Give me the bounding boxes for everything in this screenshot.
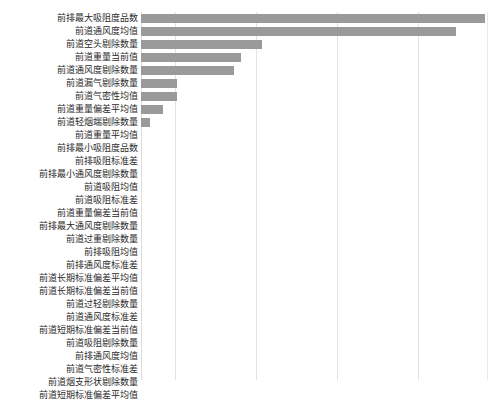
bar-row-label: 前道气密性均值 xyxy=(0,90,138,103)
bar-row: 前道重量偏差当前值 xyxy=(0,207,499,220)
bar-row-label: 前排吸阻均值 xyxy=(0,246,138,259)
bar-row: 前排通风度标准差 xyxy=(0,259,499,272)
bar xyxy=(141,105,163,114)
bar-row: 前排通风度均值 xyxy=(0,350,499,363)
bar-row: 前道通风度标准差 xyxy=(0,311,499,324)
bar-row: 前排最大通风度剔除数量 xyxy=(0,220,499,233)
bar-row: 前道吸阻均值 xyxy=(0,181,499,194)
bar xyxy=(141,79,177,88)
bar-row-label: 前道吸阻标准差 xyxy=(0,194,138,207)
bar-row: 前道过轻剔除数量 xyxy=(0,298,499,311)
bar-row: 前排最小通风度剔除数量 xyxy=(0,168,499,181)
bar-row: 前道气密性标准差 xyxy=(0,363,499,376)
bar-row: 前道重量当前值 xyxy=(0,51,499,64)
bar-row-label: 前道漏气剔除数量 xyxy=(0,77,138,90)
bar-row-label: 前道通风度均值 xyxy=(0,25,138,38)
bar-row-label: 前道吸阻均值 xyxy=(0,181,138,194)
bar-row: 前道轻烟端剔除数量 xyxy=(0,116,499,129)
bar-row: 前道吸阻标准差 xyxy=(0,194,499,207)
bar-row-label: 前排吸阻标准差 xyxy=(0,155,138,168)
bar-row: 前排吸阻标准差 xyxy=(0,155,499,168)
bar-row-label: 前道通风度标准差 xyxy=(0,311,138,324)
bar-row: 前道气密性均值 xyxy=(0,90,499,103)
bar xyxy=(141,53,241,62)
bar-row: 前道重量偏差平均值 xyxy=(0,103,499,116)
bar-row-label: 前排通风度标准差 xyxy=(0,259,138,272)
bar-row: 前道漏气剔除数量 xyxy=(0,77,499,90)
bar-row-label: 前道长期标准偏差平均值 xyxy=(0,272,138,285)
bar-row-label: 前排最小通风度剔除数量 xyxy=(0,168,138,181)
bar xyxy=(141,27,456,36)
bar-row: 前道长期标准偏差平均值 xyxy=(0,272,499,285)
bar-row: 前排最大吸阻度品数 xyxy=(0,12,499,25)
bar xyxy=(141,40,262,49)
bar-row-label: 前道短期标准偏差当前值 xyxy=(0,324,138,337)
bar-row-label: 前排最大通风度剔除数量 xyxy=(0,220,138,233)
bar xyxy=(141,118,150,127)
bar-row: 前排最小吸阻度品数 xyxy=(0,142,499,155)
bar-row: 前道长期标准偏差当前值 xyxy=(0,285,499,298)
bar-row: 前排吸阻均值 xyxy=(0,246,499,259)
bar-row: 前道通风度剔除数量 xyxy=(0,64,499,77)
bar xyxy=(141,14,485,23)
bar-row: 前道通风度均值 xyxy=(0,25,499,38)
bar-row-label: 前道烟支形状剔除数量 xyxy=(0,376,138,389)
bar xyxy=(141,66,234,75)
bar-row-label: 前排通风度均值 xyxy=(0,350,138,363)
bar-row-label: 前道重量当前值 xyxy=(0,51,138,64)
bar xyxy=(141,92,177,101)
plot-area: 前排最大吸阻度品数前道通风度均值前道空头剔除数量前道重量当前值前道通风度剔除数量… xyxy=(0,12,499,380)
bar-row: 前道烟支形状剔除数量 xyxy=(0,376,499,389)
bar-row-label: 前道通风度剔除数量 xyxy=(0,64,138,77)
bar-row-label: 前道重量偏差平均值 xyxy=(0,103,138,116)
bar-row-label: 前道轻烟端剔除数量 xyxy=(0,116,138,129)
bar-row-label: 前道长期标准偏差当前值 xyxy=(0,285,138,298)
cropped-top-text-strip xyxy=(0,0,499,11)
bar-row-label: 前排最大吸阻度品数 xyxy=(0,12,138,25)
bar-row-label: 前道短期标准偏差平均值 xyxy=(0,389,138,402)
bar-row: 前道短期标准偏差平均值 xyxy=(0,389,499,402)
bar-row-label: 前道气密性标准差 xyxy=(0,363,138,376)
bar-row-label: 前道吸阻剔除数量 xyxy=(0,337,138,350)
bar-row-label: 前道过重剔除数量 xyxy=(0,233,138,246)
bar-row-label: 前道过轻剔除数量 xyxy=(0,298,138,311)
bar-row: 前道重量平均值 xyxy=(0,129,499,142)
bar-rows-container: 前排最大吸阻度品数前道通风度均值前道空头剔除数量前道重量当前值前道通风度剔除数量… xyxy=(0,12,499,380)
bar-row-label: 前道重量偏差当前值 xyxy=(0,207,138,220)
bar-row: 前道过重剔除数量 xyxy=(0,233,499,246)
bar-row: 前道短期标准偏差当前值 xyxy=(0,324,499,337)
bar-row-label: 前排最小吸阻度品数 xyxy=(0,142,138,155)
bar-row: 前道吸阻剔除数量 xyxy=(0,337,499,350)
bar-row-label: 前道重量平均值 xyxy=(0,129,138,142)
bar-row: 前道空头剔除数量 xyxy=(0,38,499,51)
bar-row-label: 前道空头剔除数量 xyxy=(0,38,138,51)
